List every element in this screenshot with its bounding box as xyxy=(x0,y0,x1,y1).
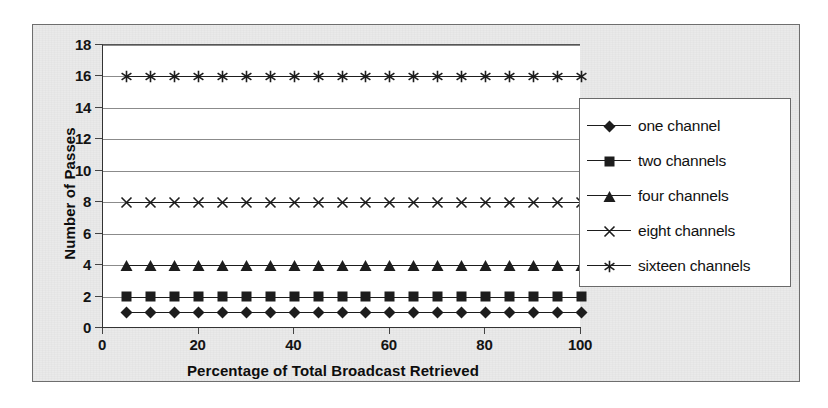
x-axis-tick-label: 20 xyxy=(175,336,221,353)
chart-frame: Number of Passes 024681012141618 0204060… xyxy=(32,24,800,382)
legend-swatch-square-icon xyxy=(587,154,631,168)
y-axis-tick-label: 10 xyxy=(65,161,91,178)
legend-swatch-diamond-icon xyxy=(587,119,631,133)
y-axis-tick-labels: 024681012141618 xyxy=(61,25,91,381)
legend-item-eight-channels[interactable]: eight channels xyxy=(580,213,790,248)
gridline xyxy=(103,171,580,172)
x-axis-title: Percentage of Total Broadcast Retrieved xyxy=(73,362,593,379)
y-axis-tick-label: 16 xyxy=(65,67,91,84)
chart-legend: one channeltwo channelsfour channelseigh… xyxy=(579,98,791,287)
y-axis-tick xyxy=(95,201,102,202)
x-axis-tick-label: 100 xyxy=(557,336,603,353)
legend-item-four-channels[interactable]: four channels xyxy=(580,178,790,213)
x-axis-tick-label: 60 xyxy=(366,336,412,353)
y-axis-tick xyxy=(95,264,102,265)
y-axis-tick xyxy=(95,138,102,139)
legend-label: one channel xyxy=(638,117,720,135)
y-axis-tick xyxy=(95,296,102,297)
y-axis-tick xyxy=(95,44,102,45)
gridline xyxy=(103,234,580,235)
legend-item-sixteen-channels[interactable]: sixteen channels xyxy=(580,248,790,283)
y-axis-tick-label: 12 xyxy=(65,130,91,147)
x-axis-tick xyxy=(102,328,103,334)
y-axis-tick xyxy=(95,170,102,171)
y-axis-tick-label: 4 xyxy=(65,256,91,273)
chart-screenshot: Number of Passes 024681012141618 0204060… xyxy=(0,0,828,408)
gridline xyxy=(103,297,580,298)
x-axis-line xyxy=(102,327,581,328)
plot-area xyxy=(102,44,580,327)
y-axis-tick-label: 2 xyxy=(65,287,91,304)
x-axis-tick-label: 40 xyxy=(270,336,316,353)
y-axis-tick-label: 14 xyxy=(65,98,91,115)
gridlines xyxy=(103,45,580,327)
x-axis-tick xyxy=(198,328,199,334)
gridline xyxy=(103,202,580,203)
y-axis-tick xyxy=(95,233,102,234)
x-axis-tick xyxy=(484,328,485,334)
x-axis-tick xyxy=(389,328,390,334)
gridline xyxy=(103,76,580,77)
legend-swatch-triangle-icon xyxy=(587,189,631,203)
legend-label: four channels xyxy=(638,187,728,205)
legend-item-two-channels[interactable]: two channels xyxy=(580,143,790,178)
x-axis-tick-label: 80 xyxy=(461,336,507,353)
y-axis-tick-label: 18 xyxy=(65,36,91,53)
y-axis-tick xyxy=(95,327,102,328)
x-axis-tick xyxy=(580,328,581,334)
gridline xyxy=(103,265,580,266)
legend-item-one-channel[interactable]: one channel xyxy=(580,108,790,143)
x-axis-tick xyxy=(293,328,294,334)
y-axis-tick xyxy=(95,75,102,76)
legend-swatch-cross-x-icon xyxy=(587,224,631,238)
legend-swatch-asterisk-icon xyxy=(587,259,631,273)
y-axis-tick-label: 0 xyxy=(65,319,91,336)
gridline xyxy=(103,108,580,109)
gridline xyxy=(103,45,580,46)
y-axis-tick-label: 8 xyxy=(65,193,91,210)
y-axis-tick xyxy=(95,107,102,108)
legend-label: two channels xyxy=(638,152,726,170)
y-axis-tick-label: 6 xyxy=(65,224,91,241)
legend-label: sixteen channels xyxy=(638,257,750,275)
x-axis-tick-label: 0 xyxy=(79,336,125,353)
gridline xyxy=(103,139,580,140)
legend-label: eight channels xyxy=(638,222,735,240)
